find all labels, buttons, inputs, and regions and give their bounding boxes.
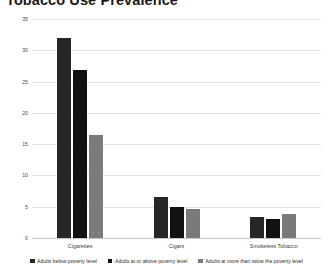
legend-item: Adults at or above poverty level (108, 258, 187, 264)
bar (154, 197, 168, 238)
y-tick-label-10: 10 (22, 172, 28, 178)
y-tick-label-15: 15 (22, 141, 28, 147)
bar-group: Cigars (154, 19, 200, 238)
y-tick-label-0: 0 (25, 235, 28, 241)
legend-swatch-icon (108, 259, 113, 264)
plot-area: 35302520151050 CigarettesCigarsSmokeless… (32, 19, 321, 238)
legend-swatch-icon (198, 259, 203, 264)
bar (73, 70, 87, 238)
chart-legend: Adults below poverty levelAdults at or a… (30, 258, 303, 264)
bar-group: Cigarettes (57, 19, 103, 238)
bar (57, 38, 71, 238)
bar (89, 135, 103, 238)
bar-group: Smokeless Tobacco (250, 19, 296, 238)
bar (282, 214, 296, 238)
x-axis-category-label: Cigars (154, 243, 200, 250)
bar-groups: CigarettesCigarsSmokeless Tobacco (32, 19, 321, 238)
legend-item: Adults at more than twice the poverty le… (198, 258, 302, 264)
legend-label: Adults below poverty level (37, 258, 97, 264)
chart-title: Tobacco Use Prevalence (6, 0, 306, 8)
y-tick-label-25: 25 (22, 79, 28, 85)
legend-label: Adults at more than twice the poverty le… (205, 258, 302, 264)
y-tick-label-5: 5 (25, 204, 28, 210)
y-tick-label-20: 20 (22, 110, 28, 116)
bar (250, 217, 264, 238)
gridline-0 (32, 238, 321, 239)
legend-swatch-icon (30, 259, 35, 264)
legend-label: Adults at or above poverty level (115, 258, 187, 264)
chart-container: Tobacco Use Prevalence 35302520151050 Ci… (0, 0, 329, 275)
y-tick-label-30: 30 (22, 47, 28, 53)
y-tick-label-35: 35 (22, 16, 28, 22)
x-axis-category-label: Smokeless Tobacco (250, 243, 296, 250)
legend-item: Adults below poverty level (30, 258, 97, 264)
x-axis-category-label: Cigarettes (57, 243, 103, 250)
bar (170, 207, 184, 238)
bar (186, 209, 200, 238)
bar (266, 219, 280, 238)
